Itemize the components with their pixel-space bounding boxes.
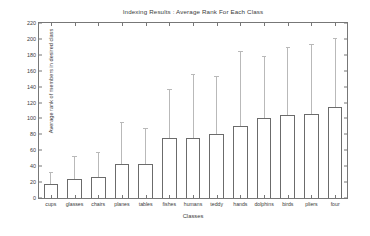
y-axis-tick-mark [39, 23, 42, 24]
y-axis-tick-mark [344, 198, 347, 199]
bar-dolphins[interactable] [257, 118, 272, 198]
y-axis-tick-mark [39, 182, 42, 183]
y-axis-tick-label: 0 [33, 195, 36, 201]
y-axis-tick-mark [344, 70, 347, 71]
x-axis-tick-mark [335, 23, 336, 26]
x-axis-tick-mark [98, 195, 99, 198]
x-axis-tick-label: glasses [66, 201, 84, 207]
x-axis-tick-label: fishes [163, 201, 177, 207]
error-bar-cap-upper [143, 128, 147, 129]
x-axis-tick-mark [122, 195, 123, 198]
y-axis-tick-mark [344, 102, 347, 103]
bar-four[interactable] [328, 107, 343, 198]
error-bar-cap-upper [214, 76, 218, 77]
y-axis-tick-mark [344, 54, 347, 55]
y-axis-tick-mark [344, 86, 347, 87]
x-axis-tick-mark [169, 195, 170, 198]
x-axis-tick-mark [217, 195, 218, 198]
x-axis-tick-label: dolphins [254, 201, 273, 207]
x-axis-tick-label: pliers [305, 201, 317, 207]
x-axis-tick-mark [193, 23, 194, 26]
x-axis-tick-label: humans [184, 201, 202, 207]
x-axis-tick-mark [311, 23, 312, 26]
y-axis-tick-mark [39, 70, 42, 71]
error-bar-cap-upper [333, 38, 337, 39]
y-axis-tick-label: 180 [27, 52, 36, 58]
y-axis-tick-label: 120 [27, 100, 36, 106]
bar-humans[interactable] [186, 138, 201, 198]
y-axis-tick-mark [344, 134, 347, 135]
x-axis-tick-mark [240, 195, 241, 198]
error-bar-cap-upper [262, 56, 266, 57]
error-bar-cap-upper [167, 89, 171, 90]
x-axis-tick-mark [75, 195, 76, 198]
x-axis-tick-mark [264, 23, 265, 26]
x-axis-tick-label: chairs [91, 201, 105, 207]
y-axis-tick-mark [39, 54, 42, 55]
x-axis-tick-mark [193, 195, 194, 198]
y-axis-tick-mark [344, 23, 347, 24]
y-axis-tick-label: 20 [30, 179, 36, 185]
y-axis-tick-label: 140 [27, 84, 36, 90]
y-axis-tick-label: 60 [30, 147, 36, 153]
bar-pliers[interactable] [304, 114, 319, 198]
bar-planes[interactable] [115, 164, 130, 198]
y-axis-tick-mark [39, 166, 42, 167]
x-axis-tick-mark [169, 23, 170, 26]
plot-inner: 020406080100120140160180200220cupsglasse… [39, 23, 347, 198]
x-axis-tick-mark [264, 195, 265, 198]
x-axis-tick-mark [217, 23, 218, 26]
x-axis-tick-mark [288, 23, 289, 26]
x-axis-tick-mark [240, 23, 241, 26]
bar-hands[interactable] [233, 126, 248, 198]
x-axis-tick-label: teddy [210, 201, 223, 207]
error-bar-cap-upper [191, 74, 195, 75]
x-axis-tick-label: tables [139, 201, 153, 207]
x-axis-tick-mark [75, 23, 76, 26]
error-bar-cap-upper [96, 152, 100, 153]
error-bar-cap-upper [238, 51, 242, 52]
bar-birds[interactable] [280, 115, 295, 198]
x-axis-tick-mark [335, 195, 336, 198]
y-axis-tick-mark [39, 86, 42, 87]
x-axis-tick-label: cups [45, 201, 56, 207]
y-axis-tick-label: 220 [27, 20, 36, 26]
x-axis-tick-mark [311, 195, 312, 198]
y-axis-tick-mark [39, 102, 42, 103]
y-axis-tick-mark [344, 150, 347, 151]
y-axis-tick-mark [344, 38, 347, 39]
bar-fishes[interactable] [162, 138, 177, 198]
x-axis-tick-mark [146, 23, 147, 26]
x-axis-tick-label: birds [282, 201, 293, 207]
y-axis-tick-mark [39, 38, 42, 39]
bar-teddy[interactable] [209, 134, 224, 198]
error-bar-cap-upper [120, 122, 124, 123]
y-axis-tick-mark [39, 150, 42, 151]
x-axis-tick-mark [288, 195, 289, 198]
x-axis-tick-mark [51, 23, 52, 26]
x-axis-tick-mark [146, 195, 147, 198]
x-axis-tick-label: planes [114, 201, 129, 207]
y-axis-tick-label: 160 [27, 68, 36, 74]
x-axis-tick-mark [98, 23, 99, 26]
y-axis-tick-label: 80 [30, 131, 36, 137]
y-axis-tick-mark [39, 198, 42, 199]
y-axis-tick-label: 200 [27, 36, 36, 42]
y-axis-tick-mark [39, 134, 42, 135]
x-axis-label: Classes [38, 213, 348, 219]
y-axis-tick-mark [344, 182, 347, 183]
error-bar-cap-upper [49, 172, 53, 173]
x-axis-tick-label: hands [233, 201, 247, 207]
y-axis-tick-mark [344, 118, 347, 119]
y-axis-tick-mark [39, 118, 42, 119]
chart-title: Indexing Results : Average Rank For Each… [38, 8, 348, 15]
y-axis-tick-label: 40 [30, 163, 36, 169]
error-bar-cap-upper [72, 156, 76, 157]
chart-figure: Indexing Results : Average Rank For Each… [0, 0, 370, 236]
x-axis-tick-mark [51, 195, 52, 198]
bar-tables[interactable] [138, 164, 153, 198]
error-bar-cap-upper [309, 44, 313, 45]
x-axis-tick-mark [122, 23, 123, 26]
x-axis-tick-label: four [331, 201, 340, 207]
plot-area: Average rank of members in desired class… [38, 22, 348, 199]
